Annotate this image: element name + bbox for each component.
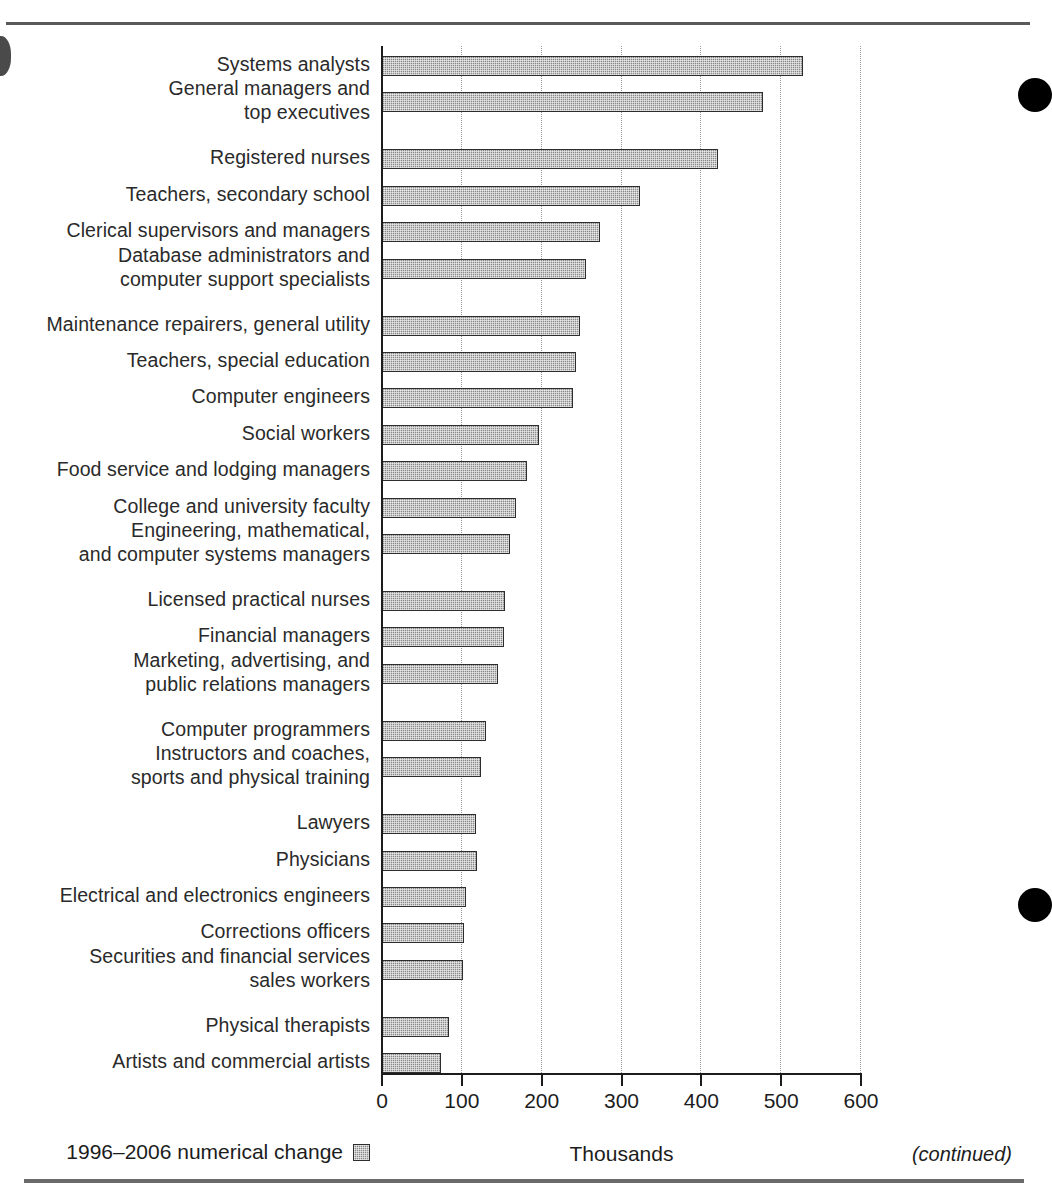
category-label-line: top executives [20,100,370,124]
category-label-line: Computer programmers [20,717,370,741]
bar [381,352,576,372]
category-label: Physical therapists [20,1013,370,1037]
category-label-line: Systems analysts [20,52,370,76]
category-label: Teachers, secondary school [20,182,370,206]
category-label: Artists and commercial artists [20,1049,370,1073]
bar [381,814,476,834]
bar [381,1053,441,1073]
x-axis-tick [860,1075,862,1086]
bar [381,92,763,112]
x-axis-tick [780,1075,782,1086]
category-label: Teachers, special education [20,348,370,372]
category-label: Financial managers [20,623,370,647]
x-axis-tick [541,1075,543,1086]
category-label-line: and computer systems managers [20,542,370,566]
x-axis-tick-label: 200 [507,1089,577,1113]
category-label: Registered nurses [20,145,370,169]
bar [381,1017,449,1037]
category-label: Engineering, mathematical,and computer s… [20,518,370,566]
gridline [860,46,861,1073]
category-label-line: Database administrators and [20,243,370,267]
category-label: Marketing, advertising, andpublic relati… [20,648,370,696]
category-label: Physicians [20,847,370,871]
gridline [780,46,781,1073]
bar [381,923,464,943]
bar [381,591,505,611]
bar [381,186,640,206]
category-label-line: Social workers [20,421,370,445]
category-label-line: Instructors and coaches, [20,741,370,765]
category-label-line: sales workers [20,968,370,992]
bar [381,498,516,518]
bar [381,149,718,169]
category-label: Electrical and electronics engineers [20,883,370,907]
x-axis-tick-label: 500 [746,1089,816,1113]
bar [381,259,586,279]
category-label: Computer engineers [20,384,370,408]
category-label-line: public relations managers [20,672,370,696]
category-label: Corrections officers [20,919,370,943]
category-label-line: Teachers, special education [20,348,370,372]
bar [381,461,527,481]
x-axis-tick-label: 300 [587,1089,657,1113]
bar [381,960,463,980]
category-label-line: Teachers, secondary school [20,182,370,206]
bar [381,721,486,741]
x-axis-tick [700,1075,702,1086]
bar [381,757,481,777]
category-label: Systems analysts [20,52,370,76]
bar [381,425,539,445]
bar [381,664,498,684]
category-label: Social workers [20,421,370,445]
category-label: College and university faculty [20,494,370,518]
category-label: Lawyers [20,810,370,834]
category-label: Food service and lodging managers [20,457,370,481]
bar [381,851,477,871]
x-axis-title: Thousands [381,1142,862,1166]
category-label: General managers andtop executives [20,76,370,124]
bar [381,222,600,242]
x-axis-tick [381,1075,383,1086]
category-label: Maintenance repairers, general utility [20,312,370,336]
continued-note: (continued) [912,1143,1012,1166]
x-axis-tick-label: 0 [347,1089,417,1113]
bar [381,887,466,907]
category-label: Securities and financial servicessales w… [20,944,370,992]
bar [381,316,580,336]
plot-area [381,46,860,1073]
category-label-line: sports and physical training [20,765,370,789]
category-label-line: Physical therapists [20,1013,370,1037]
legend-swatch-icon [353,1144,370,1161]
bar [381,534,510,554]
category-label-line: Artists and commercial artists [20,1049,370,1073]
category-label-line: Registered nurses [20,145,370,169]
category-label-line: Food service and lodging managers [20,457,370,481]
category-label-line: Electrical and electronics engineers [20,883,370,907]
legend-label: 1996–2006 numerical change [66,1140,343,1163]
category-label-line: Securities and financial services [20,944,370,968]
x-axis-tick-label: 600 [826,1089,896,1113]
bar [381,388,573,408]
category-label-line: Physicians [20,847,370,871]
category-label: Database administrators andcomputer supp… [20,243,370,291]
bar [381,56,803,76]
category-label: Clerical supervisors and managers [20,218,370,242]
category-label-line: Lawyers [20,810,370,834]
category-label-line: Financial managers [20,623,370,647]
category-label-line: computer support specialists [20,267,370,291]
x-axis-tick [461,1075,463,1086]
category-label-line: Clerical supervisors and managers [20,218,370,242]
category-label-line: Engineering, mathematical, [20,518,370,542]
x-axis-tick-label: 400 [666,1089,736,1113]
category-label-line: General managers and [20,76,370,100]
x-axis-tick [621,1075,623,1086]
category-label: Instructors and coaches,sports and physi… [20,741,370,789]
category-label: Licensed practical nurses [20,587,370,611]
x-axis-tick-label: 100 [427,1089,497,1113]
category-label-line: Maintenance repairers, general utility [20,312,370,336]
y-axis-line [381,46,383,1075]
category-labels-column: Systems analystsGeneral managers andtop … [10,0,370,1080]
category-label-line: College and university faculty [20,494,370,518]
page-bottom-rule [24,1179,1024,1183]
